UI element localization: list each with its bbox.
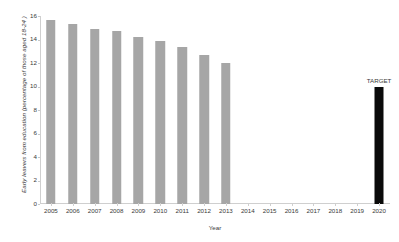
bar[interactable] <box>199 55 209 204</box>
bar-slot <box>84 16 106 204</box>
x-tick-label: 2007 <box>84 207 106 214</box>
x-tick-label: 2010 <box>149 207 171 214</box>
bar-slot: TARGET <box>368 16 390 204</box>
x-tick-mark <box>160 203 161 206</box>
x-axis-ticks: 2005200620072008200920102011201220132014… <box>40 207 390 219</box>
bar-slot <box>171 16 193 204</box>
bar-slot <box>237 16 259 204</box>
bar-slot <box>149 16 171 204</box>
x-tick-mark <box>226 203 227 206</box>
x-tick-label: 2012 <box>193 207 215 214</box>
y-tick-label: 6 <box>26 129 37 136</box>
x-tick-label: 2008 <box>106 207 128 214</box>
y-tick-label: 4 <box>26 153 37 160</box>
x-tick-mark <box>270 203 271 206</box>
x-tick-mark <box>335 203 336 206</box>
x-axis-title: Year <box>40 224 390 231</box>
bar-slot <box>215 16 237 204</box>
x-tick-mark <box>204 203 205 206</box>
bar-slot <box>193 16 215 204</box>
bar-slot <box>128 16 150 204</box>
bar-slot <box>106 16 128 204</box>
bars-layer: TARGET <box>40 16 390 204</box>
y-tick-label: 14 <box>26 35 37 42</box>
bar[interactable] <box>156 41 166 204</box>
x-tick-label: 2005 <box>40 207 62 214</box>
bar[interactable] <box>112 31 122 204</box>
bar[interactable] <box>68 24 78 204</box>
y-tick-label: 16 <box>26 12 37 19</box>
bar[interactable] <box>46 20 56 204</box>
bar[interactable] <box>134 37 144 204</box>
bar-slot <box>259 16 281 204</box>
x-tick-mark <box>73 203 74 206</box>
target-annotation-label: TARGET <box>367 77 392 84</box>
x-tick-label: 2011 <box>171 207 193 214</box>
x-tick-mark <box>95 203 96 206</box>
bar-slot <box>303 16 325 204</box>
x-tick-label: 2014 <box>237 207 259 214</box>
x-tick-label: 2017 <box>303 207 325 214</box>
bar-slot <box>281 16 303 204</box>
bar[interactable] <box>221 63 231 204</box>
y-tick-label: 8 <box>26 106 37 113</box>
y-tick-label: 2 <box>26 176 37 183</box>
bar-slot <box>324 16 346 204</box>
x-tick-mark <box>182 203 183 206</box>
x-tick-label: 2009 <box>128 207 150 214</box>
bar[interactable] <box>375 87 384 205</box>
bar-slot <box>346 16 368 204</box>
x-tick-label: 2015 <box>259 207 281 214</box>
x-tick-mark <box>138 203 139 206</box>
bar-chart: Early leavers from education (percentage… <box>0 0 399 242</box>
x-tick-mark <box>313 203 314 206</box>
bar[interactable] <box>90 29 100 204</box>
x-tick-label: 2013 <box>215 207 237 214</box>
plot-area: 0246810121416 TARGET <box>40 16 390 204</box>
y-tick-label: 10 <box>26 82 37 89</box>
bar[interactable] <box>177 47 187 204</box>
x-tick-label: 2018 <box>324 207 346 214</box>
bar-slot <box>40 16 62 204</box>
y-tick-label: 0 <box>26 200 37 207</box>
y-tick-label: 12 <box>26 59 37 66</box>
x-tick-mark <box>379 203 380 206</box>
x-tick-label: 2006 <box>62 207 84 214</box>
x-tick-label: 2020 <box>368 207 390 214</box>
x-tick-label: 2019 <box>346 207 368 214</box>
x-tick-mark <box>117 203 118 206</box>
x-tick-mark <box>292 203 293 206</box>
bar-slot <box>62 16 84 204</box>
x-tick-mark <box>51 203 52 206</box>
x-tick-mark <box>248 203 249 206</box>
y-tick-mark <box>38 204 41 205</box>
x-tick-label: 2016 <box>281 207 303 214</box>
x-tick-mark <box>357 203 358 206</box>
